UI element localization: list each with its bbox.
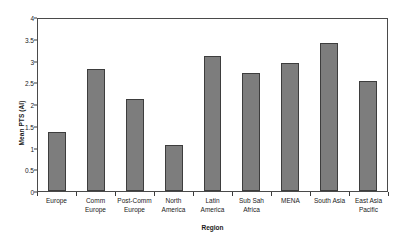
bars-layer (38, 19, 387, 191)
bar-slot (309, 19, 348, 191)
y-axis-tick-label: 0.5 (25, 167, 34, 174)
x-axis-tick-label: NorthAmerica (154, 197, 193, 214)
bar-slot (193, 19, 232, 191)
x-axis-tick-mark (193, 192, 194, 196)
x-axis-tick-label: South Asia (310, 197, 349, 214)
bar-chart-figure: Mean PTS (AI) 00.511.522.533.54 EuropeCo… (0, 0, 405, 246)
bar (281, 63, 299, 191)
x-axis-tick-label: Sub SahAfrica (232, 197, 271, 214)
y-axis-tick-label: 1.5 (25, 123, 34, 130)
bar-slot (154, 19, 193, 191)
bar-slot (116, 19, 155, 191)
bar (87, 69, 105, 191)
x-axis-tick-label: East AsiaPacific (349, 197, 388, 214)
x-axis-tick-mark (310, 192, 311, 196)
y-axis-tick-labels: 00.511.522.533.54 (20, 18, 34, 192)
bar (320, 43, 338, 191)
plot-area (37, 18, 388, 192)
y-axis-tick-label: 2.5 (25, 80, 34, 87)
bar (359, 81, 377, 192)
x-axis-tick-mark (37, 192, 38, 196)
x-axis-tick-labels: EuropeCommEuropePost-CommEuropeNorthAmer… (37, 197, 388, 214)
x-axis-tick-label: MENA (271, 197, 310, 214)
bar (126, 99, 144, 191)
x-axis-tick-mark (271, 192, 272, 196)
x-axis-title: Region (37, 224, 388, 231)
bar (242, 73, 260, 191)
bar-slot (232, 19, 271, 191)
x-axis-tick-label: LatinAmerica (193, 197, 232, 214)
x-axis-tick-mark (154, 192, 155, 196)
bar-slot (348, 19, 387, 191)
bar (165, 145, 183, 191)
bar (48, 132, 66, 191)
x-axis-tick-mark (388, 192, 389, 196)
bar-slot (38, 19, 77, 191)
bar-slot (271, 19, 310, 191)
x-axis-tick-mark (115, 192, 116, 196)
bar-slot (77, 19, 116, 191)
x-axis-tick-label: Post-CommEurope (115, 197, 154, 214)
x-axis-tick-label: CommEurope (76, 197, 115, 214)
y-axis-tick-label: 3.5 (25, 36, 34, 43)
x-axis-tick-mark (76, 192, 77, 196)
x-axis-tick-marks (37, 192, 388, 196)
x-axis-tick-label: Europe (37, 197, 76, 214)
x-axis-tick-mark (349, 192, 350, 196)
x-axis-tick-mark (232, 192, 233, 196)
bar (204, 56, 222, 191)
